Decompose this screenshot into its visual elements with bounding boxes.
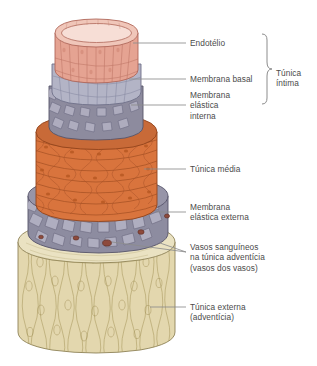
label-membrana-elastica-externa: Membrana elástica externa — [190, 202, 249, 223]
label-endotelio: Endotélio — [190, 38, 225, 48]
label-tunica-externa: Túnica externa (adventícia) — [190, 302, 246, 323]
vessel-illustration — [0, 0, 317, 366]
brace-tunica-intima — [262, 34, 272, 104]
layer-endotelio — [55, 19, 138, 84]
label-membrana-basal: Membrana basal — [190, 74, 253, 84]
label-vasos-sanguineos: Vasos sanguíneos na túnica adventícia (v… — [190, 242, 265, 273]
vessel-wall-diagram: Endotélio Membrana basal Membrana elásti… — [0, 0, 317, 366]
lumen — [62, 24, 132, 43]
label-tunica-intima: Túnica íntima — [276, 68, 301, 89]
label-tunica-media: Túnica média — [190, 164, 240, 174]
label-membrana-elastica-interna: Membrana elástica interna — [190, 90, 230, 121]
